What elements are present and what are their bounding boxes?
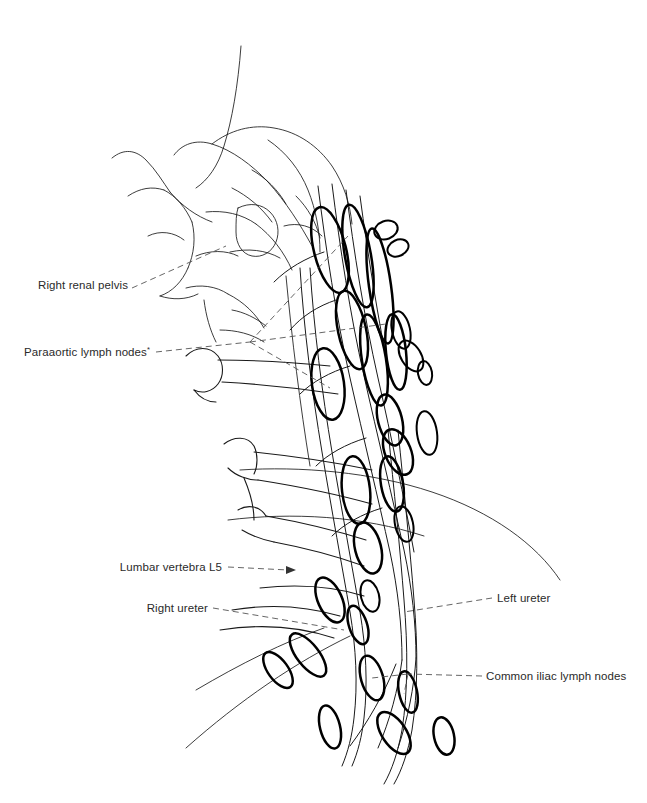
label-paraaortic-superscript: * bbox=[147, 345, 150, 354]
leader-right-renal-pelvis bbox=[132, 246, 226, 288]
leader-left-ureter bbox=[404, 598, 492, 612]
leader-paraaortic-trunk bbox=[156, 342, 250, 352]
label-paraaortic-lymph-nodes-text: Paraaortic lymph nodes bbox=[24, 346, 147, 358]
right-ureter-group bbox=[286, 268, 366, 766]
leader-lumbar-vertebra-l5 bbox=[228, 567, 288, 570]
paraaortic-node-chain-group bbox=[304, 203, 440, 577]
labels-group: Right renal pelvis Paraaortic lymph node… bbox=[24, 279, 627, 682]
label-lumbar-vertebra-l5: Lumbar vertebra L5 bbox=[120, 561, 222, 573]
label-right-renal-pelvis: Right renal pelvis bbox=[38, 279, 128, 291]
label-right-ureter: Right ureter bbox=[147, 602, 208, 614]
vertebral-column-group bbox=[186, 349, 560, 749]
anatomy-line-drawing: Right renal pelvis Paraaortic lymph node… bbox=[0, 0, 647, 803]
label-left-ureter: Left ureter bbox=[497, 592, 551, 604]
kidney-renal-pelvis-group bbox=[112, 46, 352, 342]
label-paraaortic-lymph-nodes: Paraaortic lymph nodes* bbox=[24, 345, 150, 359]
leader-common-iliac-trunk bbox=[408, 674, 482, 676]
anatomical-figure: Right renal pelvis Paraaortic lymph node… bbox=[0, 0, 647, 803]
leader-lines-group bbox=[132, 236, 492, 694]
arrowhead-lumbar-vertebra-l5 bbox=[286, 566, 296, 574]
label-common-iliac-lymph-nodes: Common iliac lymph nodes bbox=[486, 670, 627, 682]
